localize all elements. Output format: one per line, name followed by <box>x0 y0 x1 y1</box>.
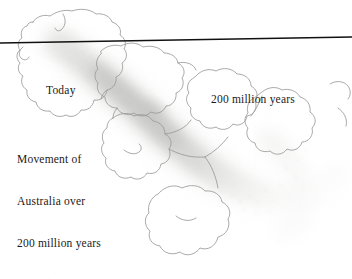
plate-border-upper <box>178 62 196 70</box>
caption-movement-of-australia: Movement of Australia over 200 million y… <box>17 124 101 278</box>
lower-middle-inlet <box>124 144 141 154</box>
caption-line-3: 200 million years <box>17 236 101 250</box>
bottom-landmass-inlet <box>176 216 196 220</box>
caption-line-2: Australia over <box>17 194 101 208</box>
map-figure: Today 200 million years Movement of Aust… <box>0 0 352 279</box>
australia-west-coast-indent <box>19 47 29 60</box>
label-today: Today <box>46 83 76 97</box>
caption-line-1: Movement of <box>17 152 101 166</box>
coast-fragment-right-edge <box>330 82 350 99</box>
label-200-million-years: 200 million years <box>211 92 295 106</box>
coast-fragment-far-right <box>338 108 347 126</box>
